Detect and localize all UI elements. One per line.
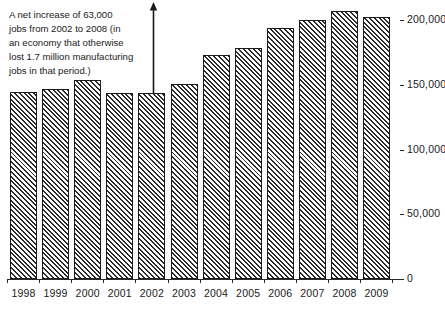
x-axis-line — [8, 279, 403, 280]
bar-1999 — [42, 89, 69, 279]
x-tick-2004 — [200, 279, 201, 283]
annotation-line-4: lost 1.7 million manufacturing — [9, 50, 159, 64]
x-tick-2005 — [232, 279, 233, 283]
y-axis-label-0: 0 — [407, 272, 413, 284]
up-arrow-icon — [147, 2, 160, 94]
x-tick-2009 — [360, 279, 361, 283]
bar-2003 — [171, 84, 198, 279]
annotation-line-2: jobs from 2002 to 2008 (in — [9, 22, 159, 36]
x-tick-1999 — [39, 279, 40, 283]
y-axis-label-200000: 200,000 — [407, 13, 445, 25]
y-tick-0 — [400, 279, 404, 280]
annotation-note: A net increase of 63,000 jobs from 2002 … — [9, 8, 159, 78]
y-tick-100000 — [400, 150, 404, 151]
bar-chart-figure: 1998199920002001200220032004200520062007… — [0, 0, 445, 310]
y-tick-50000 — [400, 214, 404, 215]
bar-2002 — [138, 93, 165, 279]
x-tick-2007 — [296, 279, 297, 283]
x-tick-2001 — [103, 279, 104, 283]
y-axis-label-100000: 100,000 — [407, 143, 445, 155]
bar-2004 — [203, 55, 230, 279]
bar-2009 — [363, 17, 390, 279]
annotation-line-5: jobs in that period.) — [9, 64, 159, 78]
y-tick-150000 — [400, 85, 404, 86]
bar-2001 — [106, 93, 133, 279]
bar-2006 — [267, 28, 294, 279]
bar-1998 — [10, 92, 37, 279]
x-tick-2006 — [264, 279, 265, 283]
x-tick-end — [392, 279, 393, 283]
x-tick-2003 — [168, 279, 169, 283]
y-axis-label-150000: 150,000 — [407, 78, 445, 90]
y-tick-200000 — [400, 20, 404, 21]
x-tick-2008 — [328, 279, 329, 283]
annotation-line-1: A net increase of 63,000 — [9, 8, 159, 22]
bar-2000 — [74, 80, 101, 279]
x-tick-2002 — [135, 279, 136, 283]
bar-2008 — [331, 11, 358, 279]
x-tick-1998 — [7, 279, 8, 283]
y-axis-label-50000: 50,000 — [407, 207, 440, 219]
x-axis-label-2009: 2009 — [357, 287, 397, 299]
annotation-line-3: an economy that otherwise — [9, 36, 159, 50]
x-tick-2000 — [71, 279, 72, 283]
bar-2005 — [235, 48, 262, 279]
bar-2007 — [299, 20, 326, 279]
